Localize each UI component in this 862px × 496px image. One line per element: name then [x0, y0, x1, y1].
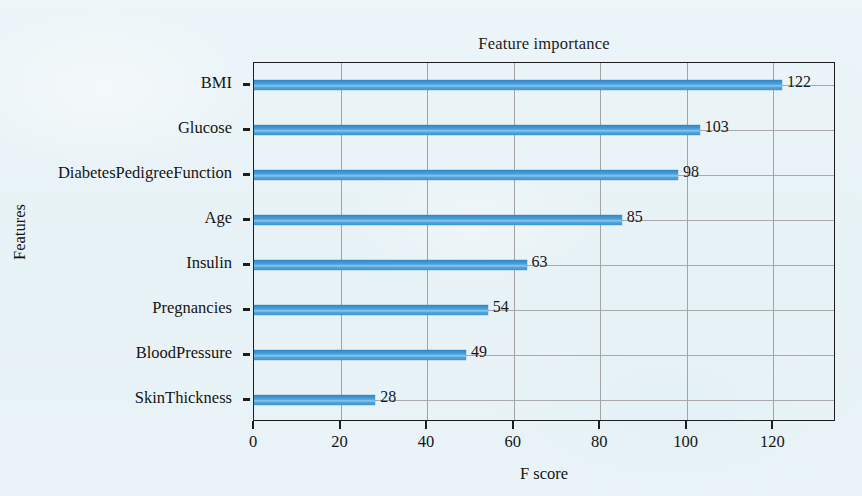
y-axis-label-glucose: Glucose: [178, 118, 232, 138]
x-tick-mark: [598, 421, 600, 429]
y-axis-label-insulin: Insulin: [186, 253, 232, 273]
feature-importance-chart: Feature importance 122103988563544928 BM…: [0, 0, 862, 496]
bar-insulin[interactable]: [254, 260, 527, 270]
y-axis-label-age: Age: [205, 208, 233, 228]
y-tick-mark: [243, 128, 250, 131]
bar-value-label: 122: [787, 73, 811, 91]
bar-value-label: 103: [705, 118, 729, 136]
bar-row: 98: [254, 170, 836, 180]
x-tick-mark: [685, 421, 687, 429]
bar-diabetespedigreefunction[interactable]: [254, 170, 678, 180]
x-axis-tick-label: 0: [249, 432, 257, 452]
y-tick-mark: [243, 83, 250, 86]
x-axis-ticks: [253, 421, 835, 431]
x-axis-tick-label: 40: [418, 432, 435, 452]
y-tick-mark: [243, 263, 250, 266]
bar-row: 63: [254, 260, 836, 270]
x-axis-tick-label: 20: [331, 432, 348, 452]
plot-area: 122103988563544928: [253, 62, 835, 421]
bar-age[interactable]: [254, 215, 622, 225]
y-axis-label-bloodpressure: BloodPressure: [136, 343, 232, 363]
x-axis-tick-label: 120: [760, 432, 785, 452]
y-tick-mark: [243, 398, 250, 401]
x-axis-tick-labels: 020406080100120: [253, 432, 835, 456]
bar-pregnancies[interactable]: [254, 305, 488, 315]
y-axis-label-pregnancies: Pregnancies: [152, 298, 232, 318]
y-tick-mark: [243, 308, 250, 311]
x-tick-mark: [425, 421, 427, 429]
y-axis-title: Features: [10, 182, 30, 282]
y-axis-label-diabetespedigreefunction: DiabetesPedigreeFunction: [58, 163, 232, 183]
bar-row: 54: [254, 305, 836, 315]
x-tick-mark: [339, 421, 341, 429]
bar-value-label: 63: [532, 253, 548, 271]
bar-row: 49: [254, 350, 836, 360]
bar-row: 122: [254, 80, 836, 90]
x-axis-tick-label: 80: [591, 432, 608, 452]
bar-value-label: 49: [471, 343, 487, 361]
x-tick-mark: [771, 421, 773, 429]
bars-layer: 122103988563544928: [254, 63, 834, 420]
bar-bmi[interactable]: [254, 80, 782, 90]
x-axis-title: F score: [253, 464, 835, 484]
y-axis-labels: BMIGlucoseDiabetesPedigreeFunctionAgeIns…: [0, 62, 246, 421]
bar-row: 103: [254, 125, 836, 135]
bar-row: 85: [254, 215, 836, 225]
y-tick-mark: [243, 173, 250, 176]
bar-skinthickness[interactable]: [254, 395, 375, 405]
bar-row: 28: [254, 395, 836, 405]
bar-value-label: 28: [380, 388, 396, 406]
y-axis-label-skinthickness: SkinThickness: [135, 388, 232, 408]
y-tick-mark: [243, 353, 250, 356]
bar-bloodpressure[interactable]: [254, 350, 466, 360]
bar-value-label: 54: [493, 298, 509, 316]
bar-value-label: 98: [683, 163, 699, 181]
y-axis-label-bmi: BMI: [201, 73, 232, 93]
bar-value-label: 85: [627, 208, 643, 226]
x-tick-mark: [512, 421, 514, 429]
x-axis-tick-label: 60: [504, 432, 521, 452]
y-tick-mark: [243, 218, 250, 221]
bar-glucose[interactable]: [254, 125, 700, 135]
x-tick-mark: [252, 421, 254, 429]
x-axis-tick-label: 100: [673, 432, 698, 452]
chart-title: Feature importance: [253, 34, 835, 54]
